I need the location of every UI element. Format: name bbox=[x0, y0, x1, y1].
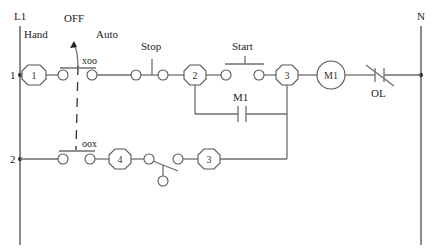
selector-contact-rung-2: oox bbox=[58, 138, 97, 164]
wire-number-node-3-top: 3 bbox=[276, 65, 298, 85]
left-rail-label: L1 bbox=[14, 10, 26, 22]
seal-in-contact-label: M1 bbox=[233, 91, 248, 103]
rung-2: oox 4 3 bbox=[20, 138, 287, 186]
rung-1: 1 xoo Stop 2 bbox=[20, 40, 421, 159]
stop-pushbutton: Stop bbox=[131, 40, 168, 80]
wire-number-node-4: 4 bbox=[109, 149, 131, 169]
rung-number-2: 2 bbox=[10, 153, 16, 165]
svg-text:M1: M1 bbox=[324, 70, 338, 81]
right-rail-label: N bbox=[417, 10, 425, 22]
selector-position-off: OFF bbox=[64, 12, 84, 24]
overload-contact: OL bbox=[366, 65, 394, 99]
selector-position-hand: Hand bbox=[24, 28, 48, 40]
seal-in-branch: M1 bbox=[195, 85, 287, 159]
ladder-diagram: L1 N 1 2 Hand OFF Auto 1 xoo bbox=[0, 0, 433, 251]
svg-text:2: 2 bbox=[193, 70, 198, 81]
svg-text:oox: oox bbox=[82, 138, 97, 149]
selector-position-auto: Auto bbox=[96, 28, 119, 40]
svg-text:3: 3 bbox=[285, 70, 290, 81]
wire-number-node-1: 1 bbox=[22, 65, 46, 85]
selector-mechanical-link bbox=[76, 66, 78, 150]
motor-coil-m1: M1 bbox=[317, 61, 345, 89]
rung-number-1: 1 bbox=[10, 69, 16, 81]
selector-actuator-arrow bbox=[70, 41, 78, 68]
start-label: Start bbox=[232, 40, 253, 52]
ol-label: OL bbox=[371, 87, 386, 99]
svg-text:3: 3 bbox=[207, 154, 212, 165]
stop-label: Stop bbox=[141, 40, 162, 52]
wire-number-node-2: 2 bbox=[184, 65, 206, 85]
wire-number-node-3-bottom: 3 bbox=[198, 149, 220, 169]
three-terminal-switch bbox=[144, 154, 183, 186]
svg-text:1: 1 bbox=[32, 70, 37, 81]
svg-text:4: 4 bbox=[118, 154, 123, 165]
svg-text:xoo: xoo bbox=[82, 55, 97, 66]
start-pushbutton: Start bbox=[221, 40, 264, 80]
